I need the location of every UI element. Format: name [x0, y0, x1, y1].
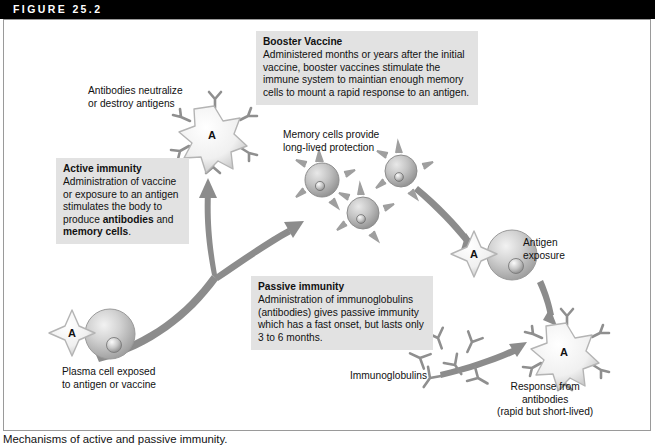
callout-active-bold-antibodies: antibodies [103, 214, 154, 225]
callout-active-body-part2: and [154, 214, 174, 225]
arrow-memory-to-exposure [414, 186, 470, 243]
callout-passive-immunity: Passive immunity Administration of immun… [251, 276, 433, 350]
arrow-exposure-to-response [537, 280, 554, 316]
label-response-from-antibodies: Response from antibodies (rapid but shor… [497, 381, 593, 419]
callout-booster-vaccine: Booster Vaccine Administered months or y… [256, 31, 478, 105]
label-immunoglobulins: Immunoglobulins [350, 370, 427, 383]
figure-caption: Mechanisms of active and passive immunit… [3, 433, 228, 445]
callout-active-immunity: Active immunity Administration of vaccin… [56, 158, 189, 244]
arrow-head-up [199, 178, 217, 198]
callout-passive-body: Administration of immunoglobulins (antib… [258, 294, 424, 342]
antigen-antibody-complex-bottom-right: A [523, 309, 609, 390]
arrow-head-response-top [543, 308, 557, 326]
memory-cell [337, 184, 394, 241]
figure-page: FIGURE 25.2 [0, 0, 655, 448]
callout-active-body-part3: . [128, 226, 131, 237]
immunoglobulin [467, 367, 491, 390]
memory-cell-cluster [296, 142, 433, 241]
label-memory-cells: Memory cells provide long-lived protecti… [283, 129, 379, 154]
label-antibodies-neutralize: Antibodies neutralize or destroy antigen… [88, 85, 183, 110]
svg-text:A: A [68, 327, 76, 339]
svg-text:A: A [470, 248, 478, 260]
svg-text:A: A [560, 346, 568, 358]
arrow-ig-to-response [440, 347, 517, 378]
arrow-branch-to-memory [214, 228, 291, 281]
memory-cell [376, 142, 433, 199]
svg-text:A: A [208, 129, 216, 141]
label-plasma-cell: Plasma cell exposed to antigen or vaccin… [62, 366, 156, 391]
arrow-up-to-antibody-complex [205, 192, 218, 280]
callout-active-bold-memory-cells: memory cells [63, 226, 128, 237]
plasma-cell-bottom-left: A [49, 309, 135, 359]
immunoglobulin [460, 331, 483, 355]
callout-active-title: Active immunity [63, 163, 182, 175]
callout-booster-body: Administered months or years after the i… [263, 49, 469, 97]
callout-booster-title: Booster Vaccine [263, 36, 471, 48]
label-antigen-exposure: Antigen exposure [523, 237, 565, 262]
callout-passive-title: Passive immunity [258, 281, 426, 293]
